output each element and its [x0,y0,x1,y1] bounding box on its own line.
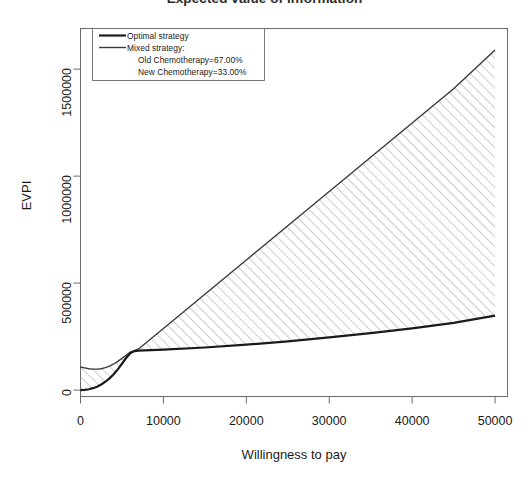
plot-area [0,0,529,489]
evpi-chart: Expected value of information EVPI Willi… [0,0,529,489]
evpi-shaded-region [81,50,496,390]
